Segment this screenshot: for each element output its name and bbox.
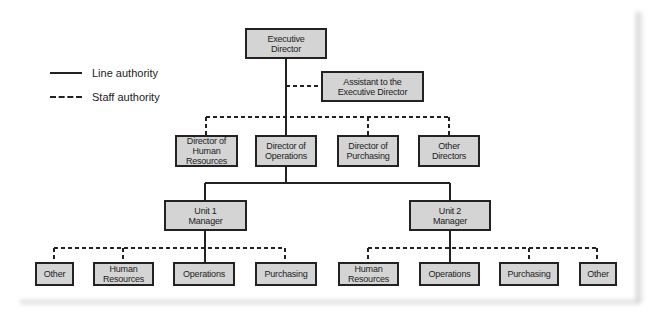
node-director-operations: Director of Operations [255,135,317,167]
node-unit2-purchasing: Purchasing [499,262,559,286]
node-unit2-other: Other [579,262,617,286]
node-label: Unit 2 Manager [430,206,470,226]
node-unit1-hr: Human Resources [93,262,154,286]
legend-staff-authority: Staff authority [50,91,160,103]
node-label: Other Directors [429,141,469,161]
node-unit1-purchasing: Purchasing [255,262,317,286]
node-unit2-hr: Human Resources [338,262,399,286]
node-label: Other [587,269,609,279]
node-label: Director of Purchasing [342,141,394,161]
node-director-purchasing: Director of Purchasing [337,135,399,167]
node-label: Human Resources [344,264,394,284]
node-executive-director: Executive Director [245,28,327,59]
node-label: Human Resources [99,264,149,284]
node-director-hr: Director of Human Resources [175,135,238,167]
legend-label: Line authority [92,67,158,79]
node-label: Unit 1 Manager [186,206,226,226]
node-label: Purchasing [264,269,307,279]
solid-line-icon [50,72,82,74]
node-label: Operations [428,269,470,279]
legend-line-authority: Line authority [50,67,158,79]
node-label: Assistant to the Executive Director [329,77,417,97]
node-unit1-manager: Unit 1 Manager [164,200,247,231]
node-label: Executive Director [261,34,311,54]
legend-label: Staff authority [92,91,160,103]
node-unit1-operations: Operations [173,262,235,286]
dashed-line-icon [50,96,82,98]
node-label: Operations [183,269,225,279]
node-other-directors: Other Directors [418,135,480,167]
node-unit1-other: Other [35,262,74,286]
node-label: Purchasing [507,269,550,279]
node-unit2-manager: Unit 2 Manager [409,200,491,231]
node-label: Director of Human Resources [179,136,235,166]
node-assistant: Assistant to the Executive Director [321,71,424,102]
node-label: Director of Operations [260,141,312,161]
node-unit2-operations: Operations [419,262,480,286]
node-label: Other [44,269,66,279]
